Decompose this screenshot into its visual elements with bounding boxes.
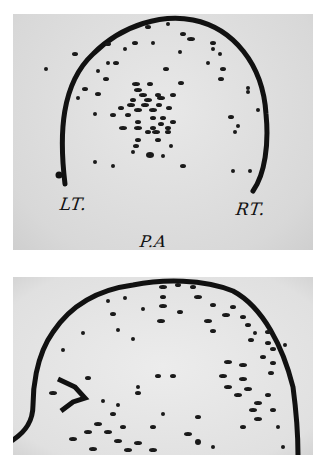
left-marker-label: LT. — [59, 194, 89, 214]
scan-dots — [44, 22, 260, 173]
view-label: P.A — [139, 232, 169, 251]
top-scan-panel — [13, 14, 313, 250]
head-outline — [62, 18, 267, 191]
top-scan-graphic — [13, 14, 313, 250]
right-marker-label: RT. — [235, 199, 268, 219]
bottom-scan-graphic — [13, 277, 313, 455]
scan-dots — [49, 283, 287, 452]
bottom-scan-panel — [13, 277, 313, 455]
arrow-marker-icon — [58, 379, 85, 411]
skull-outline — [13, 281, 298, 455]
